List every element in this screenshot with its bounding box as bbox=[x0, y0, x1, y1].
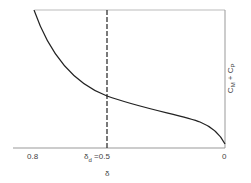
delta-d-value: =0.5 bbox=[94, 152, 110, 161]
ylabel-sub-m: M bbox=[230, 82, 236, 87]
x-tick-delta-d: δd =0.5 bbox=[84, 153, 110, 163]
ylabel-sub-p: P bbox=[230, 63, 236, 67]
x-tick-0: 0 bbox=[222, 153, 226, 161]
ylabel-c: C bbox=[226, 87, 235, 93]
data-curve bbox=[34, 10, 225, 144]
x-tick-0.8: 0.8 bbox=[27, 153, 38, 161]
y-axis-label: CM + CP bbox=[226, 63, 237, 93]
delta-d-subscript: d bbox=[88, 157, 91, 163]
ylabel-plus: + bbox=[226, 73, 235, 82]
ylabel-c2: C bbox=[226, 67, 235, 73]
x-axis-label: δ bbox=[105, 170, 109, 178]
